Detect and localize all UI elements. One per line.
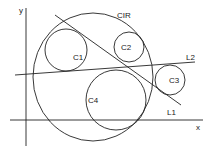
label-c3: C3	[169, 76, 180, 85]
geometry-diagram: y x CIR C1 C2 C3 C4 L1 L2	[0, 0, 209, 154]
line-l2	[15, 62, 195, 75]
circle-c1	[45, 29, 87, 71]
label-l1: L1	[167, 108, 176, 117]
label-l2: L2	[186, 53, 195, 62]
y-axis-label: y	[19, 6, 23, 15]
label-cir: CIR	[117, 11, 131, 20]
label-c2: C2	[121, 43, 132, 52]
x-axis-label: x	[196, 123, 200, 132]
label-c1: C1	[73, 53, 84, 62]
label-c4: C4	[88, 96, 99, 105]
diagram-canvas: y x CIR C1 C2 C3 C4 L1 L2	[0, 0, 209, 154]
